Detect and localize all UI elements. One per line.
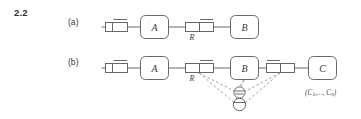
row-a-block-a-label: A xyxy=(150,22,158,33)
row-b-channel-r-symbol xyxy=(186,61,214,73)
diagram-canvas: A R B xyxy=(0,0,361,119)
row-b-block-b: B xyxy=(231,57,259,80)
row-b-tuple-annotation: (C1,..., Cn) xyxy=(305,88,336,97)
row-a-source-symbol xyxy=(102,20,128,32)
row-a-block-a: A xyxy=(141,16,169,39)
row-b-block-c: C xyxy=(309,57,337,80)
row-a-group: A R B xyxy=(102,16,259,43)
row-b-block-b-label: B xyxy=(241,63,247,74)
row-b-node-lower xyxy=(233,98,245,110)
tuple-ellipsis: ,..., xyxy=(315,88,324,97)
row-a-channel-r-label: R xyxy=(189,33,195,42)
tuple-close: ) xyxy=(334,88,336,97)
row-b-group: A R B xyxy=(102,57,337,111)
row-a-channel-r-symbol xyxy=(186,20,214,32)
row-a-block-b-label: B xyxy=(241,22,247,33)
row-b-block-a-label: A xyxy=(150,63,158,74)
row-b-node-upper xyxy=(234,87,245,98)
row-b-block-c-label: C xyxy=(319,63,326,74)
row-b-channel-r-label: R xyxy=(189,74,195,83)
row-b-source-symbol xyxy=(102,61,128,73)
row-b-block-a: A xyxy=(141,57,169,80)
row-b-channel-second-symbol xyxy=(267,61,295,73)
row-a-block-b: B xyxy=(231,16,259,39)
figure-container: 2.2 (a) (b) A xyxy=(0,0,361,119)
